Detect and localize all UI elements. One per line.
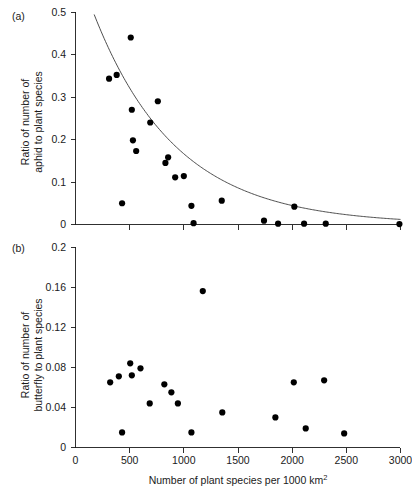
panel-b-xtick-5: 2500: [335, 454, 359, 466]
panel-b-xtick-1: 500: [121, 454, 139, 466]
data-point: [275, 221, 281, 227]
panel-a-fit-curve: [94, 14, 400, 219]
panel-a-label: (a): [12, 10, 25, 22]
data-point: [341, 430, 347, 436]
panel-b-y-ticks: [71, 247, 76, 448]
data-point: [155, 98, 161, 104]
panel-b-ytick-3: 0.12: [46, 321, 67, 333]
data-point: [175, 400, 181, 406]
data-point: [106, 76, 112, 82]
panel-a-ylabel-line2: aphid to plant species: [32, 71, 44, 173]
panel-a-y-tick-labels: 0 0.1 0.2 0.3 0.4 0.5: [51, 6, 66, 231]
panel-b-x-tick-labels: 0 500 1000 1500 2000 2500 3000: [73, 454, 412, 466]
x-axis-title-superscript: 2: [323, 473, 327, 482]
data-point: [162, 160, 168, 166]
panel-a-x-ticks: [130, 225, 401, 230]
panel-b-y-tick-labels: 0 0.04 0.08 0.12 0.16 0.2: [46, 241, 67, 454]
data-point: [127, 360, 133, 366]
panel-b-xtick-0: 0: [73, 454, 79, 466]
data-point: [261, 218, 267, 224]
data-point: [219, 198, 225, 204]
panel-a-ylabel-line1: Ratio of number of: [19, 79, 31, 165]
data-point: [272, 414, 278, 420]
panel-a-ytick-2: 0.2: [51, 133, 66, 145]
x-axis-title: Number of plant species per 1000 km2: [149, 473, 328, 486]
panel-b-xtick-4: 2000: [281, 454, 305, 466]
data-point: [119, 429, 125, 435]
data-point: [114, 72, 120, 78]
data-point: [129, 107, 135, 113]
data-point: [219, 409, 225, 415]
panel-b-axis-lines: [76, 247, 401, 448]
data-point: [396, 221, 402, 227]
panel-b-ytick-2: 0.08: [46, 361, 67, 373]
panel-b-ylabel-line1: Ratio of number of: [19, 312, 31, 398]
data-point: [119, 200, 125, 206]
panel-b-points: [107, 288, 347, 437]
data-point: [181, 173, 187, 179]
data-point: [291, 204, 297, 210]
data-point: [168, 389, 174, 395]
panel-b-ytick-4: 0.16: [46, 281, 67, 293]
panel-a-y-ticks: [71, 12, 76, 225]
panel-a-ytick-5: 0.5: [51, 6, 66, 18]
panel-a-points: [106, 34, 403, 227]
data-point: [137, 365, 143, 371]
data-point: [147, 400, 153, 406]
data-point: [321, 377, 327, 383]
panel-b-ytick-5: 0.2: [51, 241, 66, 253]
data-point: [107, 379, 113, 385]
panel-a-ytick-0: 0: [60, 218, 66, 230]
panel-b-label: (b): [12, 242, 25, 254]
panel-b: (b) Ratio of number of butterfly to plan…: [12, 241, 412, 467]
figure-container: (a) Ratio of number of aphid to plant sp…: [0, 0, 412, 494]
data-point: [165, 154, 171, 160]
panel-a-ytick-4: 0.4: [51, 48, 66, 60]
panel-b-ylabel-line2: butterfly to plant species: [32, 298, 44, 411]
data-point: [130, 137, 136, 143]
x-axis-title-main: Number of plant species per 1000 km: [149, 474, 324, 486]
panel-b-x-ticks: [130, 448, 401, 453]
panel-b-xtick-6: 3000: [389, 454, 412, 466]
panel-b-xtick-2: 1000: [172, 454, 196, 466]
data-point: [188, 429, 194, 435]
panel-a-ytick-1: 0.1: [51, 176, 66, 188]
panel-b-ytick-0: 0: [60, 441, 66, 453]
data-point: [128, 34, 134, 40]
data-point: [129, 372, 135, 378]
data-point: [116, 373, 122, 379]
panel-a: (a) Ratio of number of aphid to plant sp…: [12, 6, 403, 231]
panel-b-xtick-3: 1500: [226, 454, 250, 466]
data-point: [323, 221, 329, 227]
data-point: [291, 379, 297, 385]
data-point: [172, 174, 178, 180]
scatter-figure-svg: (a) Ratio of number of aphid to plant sp…: [0, 0, 412, 494]
panel-a-ytick-3: 0.3: [51, 91, 66, 103]
data-point: [303, 425, 309, 431]
data-point: [147, 119, 153, 125]
data-point: [188, 203, 194, 209]
data-point: [190, 220, 196, 226]
data-point: [301, 221, 307, 227]
data-point: [200, 288, 206, 294]
data-point: [133, 148, 139, 154]
panel-a-axis-lines: [76, 12, 401, 225]
data-point: [161, 381, 167, 387]
panel-b-ytick-1: 0.04: [46, 401, 67, 413]
